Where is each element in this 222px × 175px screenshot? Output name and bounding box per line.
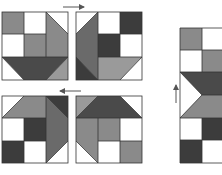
block-bottom-right xyxy=(76,96,142,163)
block-bottom-left xyxy=(2,96,68,163)
block-side-strip xyxy=(180,28,222,163)
block-top-left xyxy=(2,12,68,80)
block-top-right xyxy=(76,12,142,80)
quilt-diagram xyxy=(0,0,222,175)
